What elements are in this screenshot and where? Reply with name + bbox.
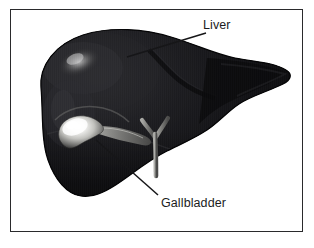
figure-root: Liver Gallbladder xyxy=(0,0,314,248)
label-gallbladder: Gallbladder xyxy=(161,197,226,210)
figure-frame: Liver Gallbladder xyxy=(10,9,303,232)
liver-organ xyxy=(11,10,301,230)
label-liver: Liver xyxy=(203,19,231,32)
liver-anatomy-illustration xyxy=(11,10,301,230)
